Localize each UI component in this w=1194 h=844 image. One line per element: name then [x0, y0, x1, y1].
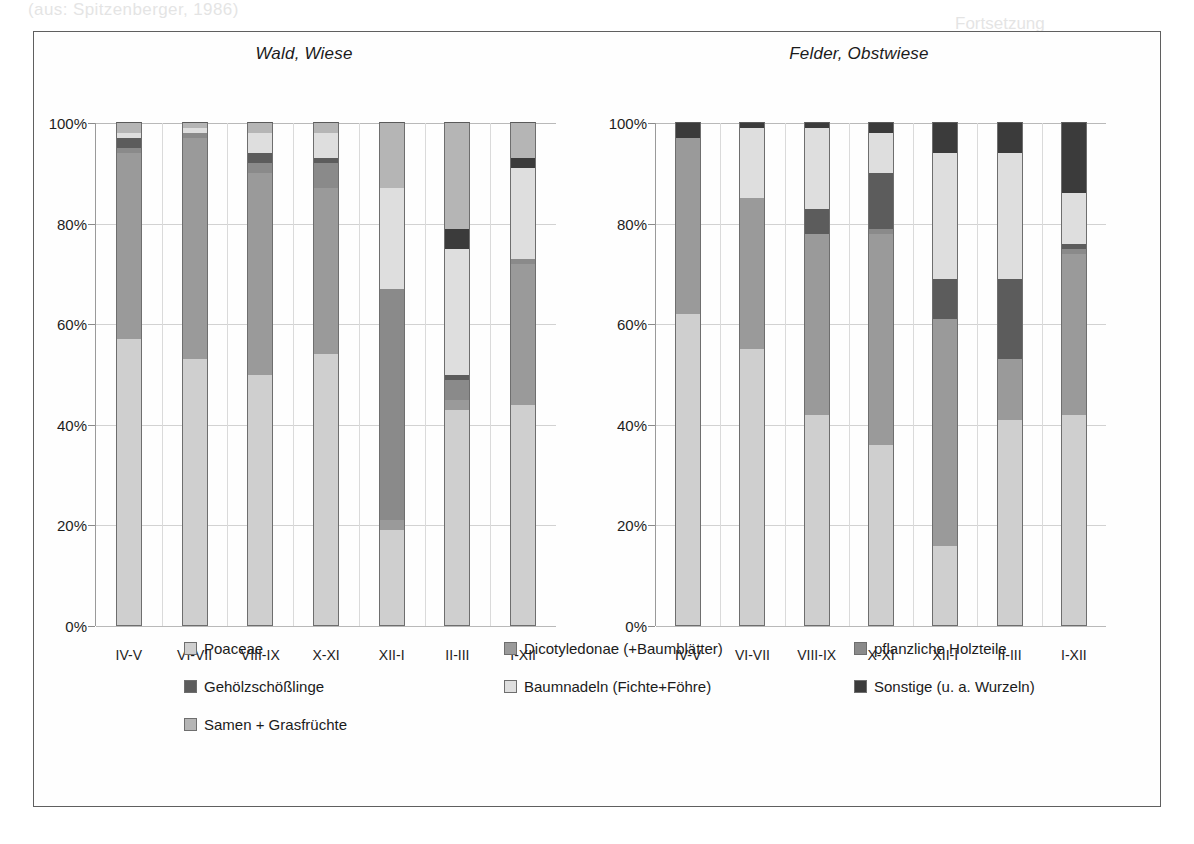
bar-segment: [675, 123, 701, 138]
bar-segment: [932, 546, 958, 626]
y-tick-label: 0%: [65, 618, 87, 635]
legend-row-2: Gehölzschößlinge Baumnadeln (Fichte+Föhr…: [184, 678, 1160, 716]
bar-segment: [510, 264, 536, 405]
bar-segment: [379, 520, 405, 530]
bar-segment: [313, 158, 339, 163]
legend-item-gehoelzschoesslinge[interactable]: Gehölzschößlinge: [184, 678, 324, 695]
y-tick-label: 60%: [57, 316, 87, 333]
bar-top-cap: [379, 122, 405, 123]
y-tick-mark: [648, 123, 655, 124]
legend-item-poaceae[interactable]: Poaceae: [184, 640, 263, 657]
legend-swatch-holzteile: [854, 642, 867, 655]
bar-segment: [997, 279, 1023, 359]
bar-segment: [739, 349, 765, 626]
bar-segment: [804, 209, 830, 234]
legend-label-gehoelzschoesslinge: Gehölzschößlinge: [204, 678, 324, 695]
bar-segment: [247, 163, 273, 173]
y-tick-label: 20%: [57, 517, 87, 534]
category-separator: [913, 123, 914, 626]
bar-segment: [675, 314, 701, 626]
bar-segment: [247, 173, 273, 374]
stacked-bar[interactable]: [868, 123, 894, 626]
bar-segment: [868, 234, 894, 445]
y-tick-label: 20%: [617, 517, 647, 534]
bar-segment: [116, 138, 142, 148]
bar-segment: [932, 123, 958, 153]
bar-top-cap: [444, 122, 470, 123]
y-tick-label: 100%: [609, 115, 647, 132]
y-tick-label: 40%: [617, 416, 647, 433]
chart-legend: Poaceae Dicotyledonae (+Baumblätter) pfl…: [34, 640, 1160, 754]
category-separator: [359, 123, 360, 626]
legend-label-sonstige: Sonstige (u. a. Wurzeln): [874, 678, 1035, 695]
stacked-bar[interactable]: [444, 123, 470, 626]
category-separator: [425, 123, 426, 626]
bar-segment: [932, 279, 958, 319]
bar-top-cap: [313, 122, 339, 123]
bar-segment: [313, 188, 339, 354]
stacked-bar[interactable]: [313, 123, 339, 626]
stacked-bar[interactable]: [675, 123, 701, 626]
bar-top-cap: [510, 122, 536, 123]
chart-panels: Wald, Wiese 0%20%40%60%80%100%IV-VVI-VII…: [34, 32, 1160, 644]
bar-segment: [997, 359, 1023, 419]
bar-segment: [247, 375, 273, 627]
bar-segment: [313, 354, 339, 626]
bleed-line-1: (aus: Spitzenberger, 1986): [28, 0, 239, 20]
chart-panel-wald-wiese: Wald, Wiese 0%20%40%60%80%100%IV-VVI-VII…: [34, 32, 594, 644]
stacked-bar[interactable]: [379, 123, 405, 626]
stacked-bar[interactable]: [182, 123, 208, 626]
y-tick-mark: [88, 324, 95, 325]
bar-segment: [675, 138, 701, 314]
y-tick-label: 100%: [49, 115, 87, 132]
bar-segment: [313, 133, 339, 158]
bar-segment: [804, 123, 830, 128]
y-tick-mark: [648, 324, 655, 325]
stacked-bar[interactable]: [116, 123, 142, 626]
stacked-bar[interactable]: [932, 123, 958, 626]
y-tick-mark: [88, 525, 95, 526]
legend-label-holzteile: pflanzliche Holzteile: [874, 640, 1007, 657]
bar-segment: [116, 153, 142, 339]
legend-swatch-poaceae: [184, 642, 197, 655]
y-tick-mark: [648, 224, 655, 225]
stacked-bar[interactable]: [997, 123, 1023, 626]
bar-segment: [444, 380, 470, 400]
y-tick-mark: [648, 626, 655, 627]
bar-top-cap: [997, 122, 1023, 123]
bar-segment: [313, 123, 339, 133]
legend-item-samen-grasfruechte[interactable]: Samen + Grasfrüchte: [184, 716, 347, 733]
bar-top-cap: [675, 122, 701, 123]
y-tick-mark: [88, 224, 95, 225]
stacked-bar[interactable]: [804, 123, 830, 626]
bar-top-cap: [739, 122, 765, 123]
y-tick-label: 60%: [617, 316, 647, 333]
bar-segment: [1061, 254, 1087, 415]
bar-segment: [932, 153, 958, 279]
legend-item-dicotyledonae[interactable]: Dicotyledonae (+Baumblätter): [504, 640, 723, 657]
bar-top-cap: [932, 122, 958, 123]
legend-item-sonstige[interactable]: Sonstige (u. a. Wurzeln): [854, 678, 1035, 695]
bar-segment: [1061, 249, 1087, 254]
bar-segment: [379, 123, 405, 188]
bar-segment: [868, 229, 894, 234]
panel-title-right: Felder, Obstwiese: [576, 44, 1142, 64]
bar-segment: [868, 123, 894, 133]
category-separator: [1042, 123, 1043, 626]
stacked-bar[interactable]: [510, 123, 536, 626]
bar-segment: [510, 259, 536, 264]
bar-segment: [1061, 193, 1087, 243]
bar-segment: [182, 128, 208, 133]
bar-segment: [444, 410, 470, 626]
bar-segment: [1061, 123, 1087, 193]
legend-swatch-gehoelzschoesslinge: [184, 680, 197, 693]
stacked-bar[interactable]: [247, 123, 273, 626]
stacked-bar[interactable]: [1061, 123, 1087, 626]
y-tick-mark: [648, 525, 655, 526]
legend-item-baumnadeln[interactable]: Baumnadeln (Fichte+Föhre): [504, 678, 711, 695]
stacked-bar[interactable]: [739, 123, 765, 626]
category-separator: [227, 123, 228, 626]
legend-item-holzteile[interactable]: pflanzliche Holzteile: [854, 640, 1007, 657]
bar-segment: [116, 123, 142, 133]
bar-segment: [313, 163, 339, 188]
